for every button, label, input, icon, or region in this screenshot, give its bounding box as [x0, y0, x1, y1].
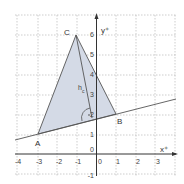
- y-tick: 4: [90, 71, 94, 78]
- x-tick: 3: [156, 158, 160, 165]
- coordinate-diagram: -4 -3 -2 -1 0 1 2 3 -1 0 1 2 3 4 5 6 x⁺ …: [0, 0, 184, 184]
- y-tick: 5: [90, 51, 94, 58]
- y-axis-arrow: [95, 13, 99, 19]
- x-axis-arrow: [172, 152, 178, 156]
- x-tick: 0: [98, 158, 102, 165]
- triangle-abc: [38, 35, 116, 134]
- x-tick: 2: [136, 158, 140, 165]
- x-tick: 1: [116, 158, 120, 165]
- y-tick: 2: [90, 111, 94, 118]
- x-tick: -4: [15, 158, 21, 165]
- y-tick: 0: [90, 146, 94, 153]
- x-tick: -1: [75, 158, 81, 165]
- y-axis-label: y⁺: [101, 26, 109, 35]
- point-c-label: C: [64, 28, 70, 37]
- y-tick: 6: [90, 31, 94, 38]
- y-tick: 1: [90, 131, 94, 138]
- x-tick: -3: [36, 158, 42, 165]
- point-b-label: B: [117, 117, 122, 126]
- x-axis-label: x⁺: [160, 145, 168, 154]
- x-tick: -2: [56, 158, 62, 165]
- y-tick: -1: [88, 172, 94, 179]
- point-a-label: A: [35, 139, 41, 148]
- y-tick: 3: [90, 91, 94, 98]
